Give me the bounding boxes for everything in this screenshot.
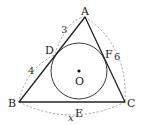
- incircle-diagram: A B C D E F O 3 4 6 x: [0, 0, 142, 125]
- length-BC: x: [68, 112, 74, 123]
- length-AD: 3: [61, 24, 67, 35]
- length-AC: 6: [114, 51, 120, 62]
- label-A: A: [80, 5, 90, 18]
- label-O: O: [75, 75, 84, 88]
- label-D: D: [45, 44, 54, 57]
- center-dot: [77, 69, 80, 72]
- label-E: E: [75, 107, 83, 120]
- label-B: B: [8, 97, 16, 110]
- length-BD: 4: [28, 65, 34, 76]
- label-C: C: [127, 97, 135, 110]
- label-F: F: [105, 48, 113, 61]
